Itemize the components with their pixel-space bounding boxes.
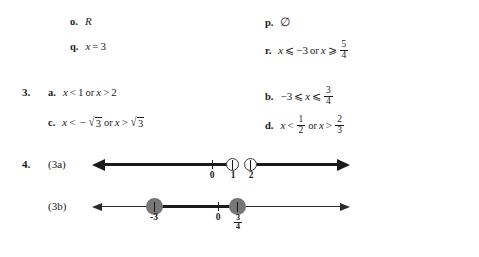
exercise-3b-fraction-numerator: 3 — [324, 86, 333, 96]
exercise-3a-relation-1: < — [68, 86, 78, 98]
exercise-p-answer: ∅ — [280, 15, 290, 30]
exercise-3b-fraction-denominator: 4 — [324, 96, 333, 107]
exercise-p-label: p. — [265, 17, 273, 28]
exercise-3c-conjunction: or — [102, 117, 115, 128]
number-line-3a-label-0: 0 — [210, 171, 215, 181]
number-line-3b-tick-neg3 — [154, 202, 155, 212]
exercise-3d-fraction-2-numerator: 2 — [335, 115, 344, 125]
exercise-3c: c. x < − √ 3 or x > √ 3 — [48, 115, 144, 129]
exercise-3c-radical-2: √ 3 — [130, 115, 144, 129]
figure-3a-caption: (3a) — [48, 158, 66, 170]
exercise-3a-answer: x < 1 or x > 2 — [63, 86, 117, 98]
exercise-3a: a. x < 1 or x > 2 — [48, 86, 117, 98]
exercise-3b-value-1: −3 — [280, 90, 292, 102]
exercise-3a-value-2: 2 — [111, 86, 117, 98]
exercise-p-value: ∅ — [280, 15, 290, 30]
exercise-3d-relation-2: > — [324, 119, 334, 131]
exercise-3d: d. x < 1 2 or x > 2 3 — [265, 115, 345, 136]
exercise-3b-answer: −3 ⩽ x ⩽ 3 4 — [280, 86, 333, 107]
exercise-3d-fraction-1-denominator: 2 — [297, 125, 306, 136]
exercise-r-answer: x ⩽ −3 or x ⩾ 5 4 — [278, 40, 349, 61]
exercise-q-answer: x = 3 — [85, 40, 106, 52]
exercise-3c-radicand-2: 3 — [137, 117, 144, 130]
exercise-3c-relation-2: > — [120, 116, 130, 128]
exercise-3d-label: d. — [265, 120, 273, 131]
number-line-3b-fraction-denominator: 4 — [234, 222, 242, 231]
exercise-3c-radical-1: √ 3 — [88, 115, 102, 129]
exercise-o-value: R — [85, 15, 92, 27]
number-line-3b-tick-0 — [218, 202, 219, 211]
exercise-3c-label: c. — [48, 117, 55, 128]
exercise-q-value: 3 — [101, 40, 107, 52]
number-line-3b-right-arrow-icon — [340, 203, 350, 211]
exercise-3a-conjunction: or — [83, 87, 96, 98]
exercise-o-answer: R — [85, 15, 92, 27]
exercise-3d-fraction-2-denominator: 3 — [335, 125, 344, 136]
exercise-3c-relation-1: < — [67, 116, 77, 128]
number-line-3a-label-1: 1 — [231, 171, 236, 181]
exercise-r-value-1: −3 — [296, 44, 308, 56]
exercise-r-relation-1: ⩽ — [283, 44, 296, 57]
exercise-o-label: o. — [70, 16, 78, 27]
number-line-3a-label-2: 2 — [249, 171, 254, 181]
exercise-r-label: r. — [265, 45, 271, 56]
exercise-3a-label: a. — [48, 87, 56, 98]
number-line-3a-right-arrow-icon — [337, 159, 350, 171]
exercise-3d-relation-1: < — [285, 119, 295, 131]
radical-sign-icon: √ — [131, 115, 137, 128]
exercise-r-fraction: 5 4 — [340, 40, 349, 61]
figure-3b-caption: (3b) — [48, 200, 66, 212]
question-3-number: 3. — [22, 86, 30, 98]
exercise-q: q. x = 3 — [70, 40, 106, 52]
exercise-q-relation: = — [90, 40, 100, 52]
exercise-3b-label: b. — [265, 91, 273, 102]
number-line-3a-tick-0 — [212, 160, 213, 169]
number-line-3a-tick-1 — [232, 160, 233, 170]
number-line-3a: 0 1 2 — [92, 153, 350, 193]
number-line-3a-shaded-right — [250, 163, 337, 167]
number-line-3a-tick-2 — [250, 160, 251, 170]
exercise-r-relation-2: ⩾ — [326, 44, 339, 57]
number-line-3b: -3 0 3 4 — [92, 195, 350, 235]
exercise-3d-fraction-1: 1 2 — [297, 115, 306, 136]
number-line-3b-tick-three-quarters — [237, 202, 238, 212]
number-line-3b-label-neg3: -3 — [150, 213, 158, 223]
exercise-3c-answer: x < − √ 3 or x > √ 3 — [62, 115, 144, 129]
exercise-3b-fraction: 3 4 — [324, 86, 333, 107]
number-line-3b-shaded-segment — [154, 205, 237, 209]
number-line-3b-fraction: 3 4 — [234, 214, 242, 232]
number-line-3b-label-0: 0 — [216, 213, 221, 223]
exercise-r-conjunction: or — [308, 45, 321, 56]
exercise-3d-fraction-2: 2 3 — [335, 115, 344, 136]
exercise-3b: b. −3 ⩽ x ⩽ 3 4 — [265, 86, 334, 107]
question-4-number: 4. — [22, 158, 30, 170]
number-line-3a-shaded-left — [104, 163, 228, 167]
exercise-3d-fraction-1-numerator: 1 — [297, 115, 306, 125]
exercise-3c-radicand-1: 3 — [95, 117, 102, 130]
exercise-o: o. R — [70, 15, 92, 27]
number-line-3b-fraction-numerator: 3 — [234, 214, 242, 222]
exercise-r: r. x ⩽ −3 or x ⩾ 5 4 — [265, 40, 349, 61]
exercise-3d-answer: x < 1 2 or x > 2 3 — [280, 115, 344, 136]
exercise-3d-conjunction: or — [306, 120, 319, 131]
exercise-3a-relation-2: > — [101, 86, 111, 98]
radical-sign-icon: √ — [88, 115, 94, 128]
exercise-r-fraction-numerator: 5 — [340, 40, 349, 50]
exercise-3b-relation-2: ⩽ — [310, 90, 323, 103]
exercise-r-fraction-denominator: 4 — [340, 50, 349, 61]
exercise-p: p. ∅ — [265, 15, 290, 30]
exercise-q-label: q. — [70, 41, 78, 52]
exercise-3b-relation-1: ⩽ — [292, 90, 305, 103]
exercise-3c-minus-sign: − — [77, 116, 87, 128]
number-line-3b-label-three-quarters: 3 4 — [233, 213, 243, 232]
